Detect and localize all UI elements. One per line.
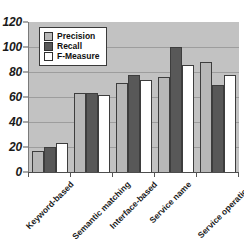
bar-service-name-fmeasure [182, 65, 194, 173]
bar-group-service-operations [200, 22, 236, 172]
bar-semantic-matching-precision [74, 93, 86, 172]
bar-interface-based-precision [116, 83, 128, 172]
legend-label-fmeasure: F-Measure [57, 52, 100, 61]
bar-chart: 120 100 80 60 40 20 0 [0, 0, 244, 248]
y-tick-label-20: 20 [9, 141, 22, 153]
legend-label-recall: Recall [57, 42, 82, 51]
legend-item-recall: Recall [44, 42, 100, 51]
bar-semantic-matching-recall [86, 93, 98, 172]
legend: Precision Recall F-Measure [39, 27, 107, 66]
legend-item-fmeasure: F-Measure [44, 52, 100, 61]
bar-group-service-name [158, 22, 194, 172]
bar-service-operations-recall [212, 85, 224, 173]
bar-interface-based-fmeasure [140, 80, 152, 173]
bar-service-name-precision [158, 77, 170, 172]
bar-service-operations-precision [200, 62, 212, 172]
bar-semantic-matching-fmeasure [98, 95, 110, 173]
bar-group-interface-based [116, 22, 152, 172]
bar-keyword-based-fmeasure [56, 143, 68, 172]
x-axis: Keyword-based Semantic matching Interfac… [0, 172, 244, 248]
y-tick-label-40: 40 [9, 116, 22, 128]
legend-label-precision: Precision [57, 32, 95, 41]
y-tick-label-60: 60 [9, 91, 22, 103]
bar-service-operations-fmeasure [224, 75, 236, 173]
legend-item-precision: Precision [44, 32, 100, 41]
y-tick-label-120: 120 [3, 16, 22, 28]
legend-swatch-fmeasure-icon [44, 52, 53, 61]
legend-swatch-precision-icon [44, 32, 53, 41]
x-tick-label-keyword-based: Keyword-based [25, 180, 76, 231]
bar-service-name-recall [170, 47, 182, 172]
x-tick-label-service-operations: Service operations [196, 180, 244, 240]
bar-keyword-based-recall [44, 147, 56, 172]
legend-swatch-recall-icon [44, 42, 53, 51]
bar-keyword-based-precision [32, 151, 44, 172]
y-tick-label-100: 100 [3, 41, 22, 53]
y-tick-label-80: 80 [9, 66, 22, 78]
bar-interface-based-recall [128, 75, 140, 173]
